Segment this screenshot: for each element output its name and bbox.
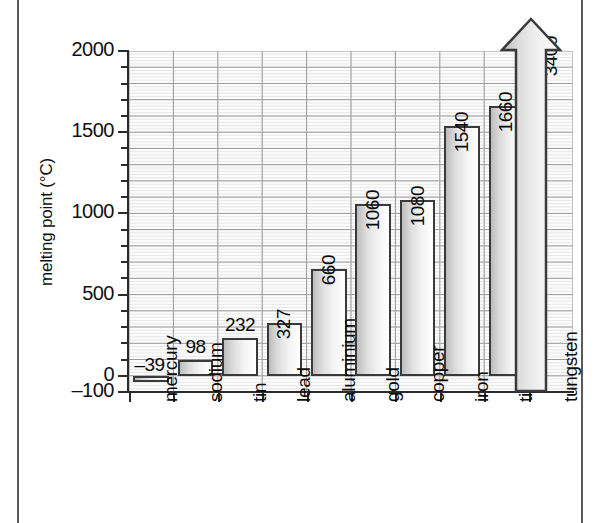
y-tick: [121, 196, 129, 198]
bar-value-iron: 1540: [451, 112, 473, 182]
x-label-copper: copper: [427, 252, 449, 402]
x-label-mercury: mercury: [160, 252, 182, 402]
y-tick: [121, 245, 129, 247]
y-tick: [121, 115, 129, 117]
x-label-gold: gold: [382, 252, 404, 402]
y-tick: [118, 294, 129, 296]
y-tick: [121, 164, 129, 166]
x-label-tungsten: tungsten: [560, 252, 582, 402]
y-tick: [121, 99, 129, 101]
bar-tungsten-overflow-arrow: [500, 17, 562, 393]
y-tick: [121, 229, 129, 231]
x-label-sodium: sodium: [205, 252, 227, 402]
x-label-iron: iron: [471, 252, 493, 402]
y-tick-label: 1000: [44, 200, 114, 223]
melting-point-bar-chart: melting point (°C) –1000500100015002000 …: [0, 0, 602, 523]
y-tick: [118, 375, 129, 377]
y-tick: [121, 326, 129, 328]
y-axis-tick-labels: –1000500100015002000: [42, 0, 114, 523]
x-label-lead: lead: [293, 252, 315, 402]
y-tick: [121, 66, 129, 68]
y-tick: [121, 83, 129, 85]
x-label-tin: tin: [249, 252, 271, 402]
y-tick: [118, 50, 129, 52]
y-tick-label: 2000: [44, 38, 114, 61]
y-tick: [118, 212, 129, 214]
y-tick-label: 500: [44, 282, 114, 305]
y-tick: [121, 342, 129, 344]
bar-value-copper: 1080: [407, 186, 429, 256]
y-tick: [121, 261, 129, 263]
y-tick: [121, 359, 129, 361]
chart-page: melting point (°C) –1000500100015002000 …: [0, 0, 602, 523]
x-label-aluminium: aluminium: [338, 252, 360, 402]
bar-value-gold: 1060: [362, 190, 384, 260]
y-tick: [118, 391, 129, 393]
y-tick-label: 0: [44, 363, 114, 386]
x-tick: [129, 393, 131, 402]
y-tick: [121, 180, 129, 182]
y-tick: [121, 277, 129, 279]
y-tick: [121, 310, 129, 312]
bar-value-aluminium: 660: [318, 255, 340, 325]
y-tick: [121, 147, 129, 149]
y-tick: [118, 131, 129, 133]
y-tick-label: 1500: [44, 119, 114, 142]
